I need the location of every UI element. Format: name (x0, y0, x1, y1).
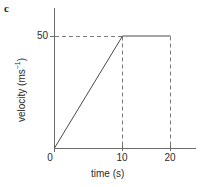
velocity-data-line (55, 36, 171, 148)
x-tick-label-10: 10 (112, 152, 132, 163)
x-tick-label-20: 20 (160, 152, 180, 163)
y-axis-title-wrapper: velocity (ms−1) (13, 40, 29, 140)
velocity-time-graph-figure: c 50 0 10 20 time (s) velocity (ms−1) (0, 0, 204, 187)
y-axis-title-main: velocity (ms (16, 69, 27, 122)
y-axis-title-tail: ) (16, 58, 27, 61)
x-tick-label-0: 0 (42, 152, 58, 163)
x-axis-title: time (s) (91, 168, 124, 179)
y-axis-title-exponent: −1 (14, 61, 21, 69)
y-axis-title: velocity (ms−1) (16, 58, 27, 122)
y-tick-label-50: 50 (32, 30, 48, 41)
